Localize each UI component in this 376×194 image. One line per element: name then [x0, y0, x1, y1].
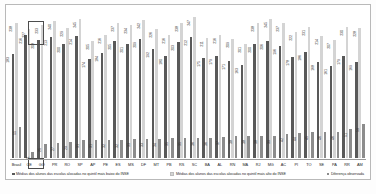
bar-value-label: 201 [123, 41, 127, 47]
x-axis-tick-pe: PE [99, 160, 112, 169]
bar-high: 229 [66, 28, 69, 158]
bar-value-label: 45 [308, 130, 312, 134]
bar-value-label: 196 [276, 44, 280, 50]
bar-diff: 55 [19, 127, 22, 158]
x-axis-tick-sc: SC [188, 160, 201, 169]
bar-group: 16922859 [353, 10, 366, 158]
bar-value-label: 184 [98, 50, 102, 56]
bar-group: 20323835 [175, 10, 188, 158]
bar-diff: 34 [158, 139, 161, 158]
bar-value-label: 163 [238, 62, 242, 68]
bar-value-label: 222 [292, 29, 296, 35]
bar-value-label: 214 [318, 33, 322, 39]
bar-value-label: 46 [334, 130, 338, 134]
x-axis: BrasilCEGOPRROSPAPPEESMSDFMTPBRSSCBAALRN… [10, 159, 366, 169]
bar-low: 161 [330, 66, 333, 158]
bar-group: 16120746 [328, 10, 341, 158]
bar-diff: 38 [247, 136, 250, 158]
bar-value-label: 216 [101, 32, 105, 38]
bar-low: 212 [190, 37, 193, 158]
chart-legend: Médias dos alunos das escolas alocadas n… [12, 170, 364, 178]
x-axis-tick-ce: CE [23, 160, 36, 169]
bar-group: 17822244 [290, 10, 303, 158]
bar-diff: 25 [44, 144, 47, 158]
bar-diff: 35 [171, 138, 174, 158]
bar-diff: 32 [120, 140, 123, 158]
x-axis-tick-es: ES [112, 160, 125, 169]
bar-value-label: 31 [79, 138, 83, 142]
bar-value-label: 211 [203, 35, 207, 40]
bar-diff: 29 [69, 142, 72, 159]
bar-value-label: 226 [152, 27, 156, 33]
bar-diff: 39 [273, 136, 276, 158]
bar-diff: 38 [235, 136, 238, 158]
bar-value-label: 209 [229, 36, 233, 42]
bar-value-label: 36 [194, 136, 198, 140]
bar-diff: 31 [95, 140, 98, 158]
bar-group: 18323855 [10, 10, 23, 158]
bar-high: 233 [41, 25, 44, 158]
bar-low: 214 [75, 36, 78, 158]
bar-value-label: 27 [54, 141, 58, 145]
bar-value-label: 44 [296, 131, 300, 135]
bar-value-label: 38 [257, 134, 261, 138]
bar-high: 216 [219, 35, 222, 158]
bar-value-label: 178 [289, 54, 293, 60]
bar-low: 205 [113, 41, 116, 158]
x-axis-tick-ap: AP [86, 160, 99, 169]
legend-label: Médias dos alunos das escolas alocadas n… [176, 172, 286, 176]
bar-value-label: 171 [225, 58, 229, 64]
bar-value-label: 161 [327, 64, 331, 70]
bar-value-label: 32 [105, 138, 109, 142]
bar-value-label: 238 [178, 20, 182, 26]
x-axis-tick-mt: MT [150, 160, 163, 169]
bar-value-label: 46 [321, 130, 325, 134]
bar-value-label: 55 [16, 125, 20, 129]
bar-value-label: 238 [12, 20, 16, 26]
bar-value-label: 209 [136, 36, 140, 42]
x-axis-tick-ma: MA [239, 160, 252, 169]
x-axis-tick-pb: PB [163, 160, 176, 169]
bar-value-label: 247 [190, 15, 194, 21]
legend-swatch-icon [170, 172, 175, 177]
bar-value-label: 231 [305, 24, 309, 30]
bar-value-label: 200 [60, 41, 64, 47]
bar-diff: 33 [146, 139, 149, 158]
bar-low: 184 [101, 53, 104, 158]
bar-high: 238 [15, 23, 18, 158]
bar-group: 18021635 [163, 10, 176, 158]
x-axis-tick-mg: MG [264, 160, 277, 169]
bar-diff: 33 [133, 139, 136, 158]
bar-value-label: 206 [263, 38, 267, 44]
bar-group: 16821446 [315, 10, 328, 158]
bar-high: 240 [53, 21, 56, 158]
chart-frame: 1832385521622711208233252132402720022929… [5, 4, 371, 180]
bar-low: 201 [126, 44, 129, 158]
bar-value-label: 208 [34, 37, 38, 43]
bar-low: 209 [139, 39, 142, 158]
bar-group: 17420531 [86, 10, 99, 158]
x-axis-tick-rs: RS [175, 160, 188, 169]
x-axis-tick-am: AM [353, 160, 366, 169]
bar-value-label: 34 [156, 137, 160, 141]
legend-label: Diferença observada [331, 172, 364, 176]
bar-group: 19222634 [150, 10, 163, 158]
x-axis-tick-to: TO [303, 160, 316, 169]
bar-group: 19623742 [277, 10, 290, 158]
bar-value-label: 228 [356, 25, 360, 31]
chart-page: 1832385521622711208233252132402720022929… [0, 0, 376, 194]
bar-value-label: 216 [165, 32, 169, 38]
bar-value-label: 230 [343, 24, 347, 30]
bar-value-label: 35 [168, 136, 172, 140]
bar-group: 17921637 [214, 10, 227, 158]
bar-diff: 31 [82, 140, 85, 158]
bar-value-label: 179 [212, 53, 216, 59]
bar-group: 21224736 [188, 10, 201, 158]
bar-value-label: 169 [352, 59, 356, 65]
bar-group: 20823325 [35, 10, 48, 158]
bar-diff: 42 [286, 134, 289, 158]
x-axis-tick-rj: RJ [252, 160, 265, 169]
bar-high: 207 [333, 40, 336, 158]
bar-value-label: 37 [219, 135, 223, 139]
x-axis-tick-ro: RO [61, 160, 74, 169]
